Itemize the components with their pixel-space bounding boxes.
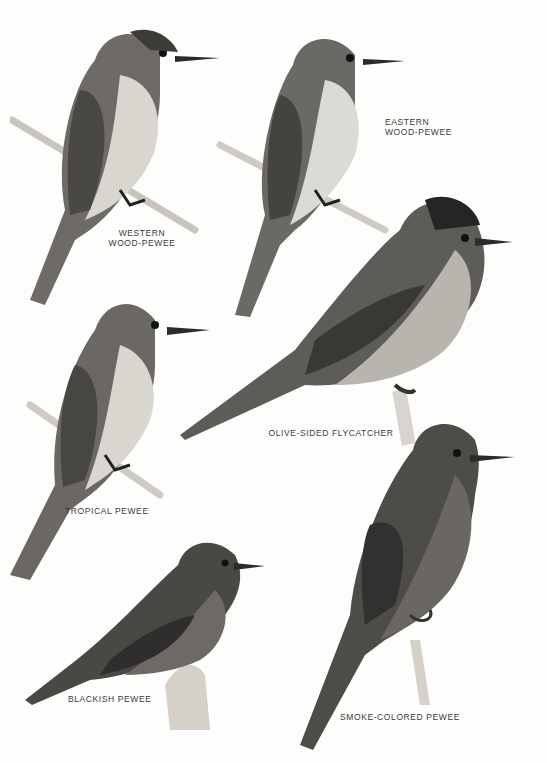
smoke-colored-pewee-label: SMOKE-COLORED PEWEE bbox=[335, 712, 465, 722]
illustration-plate: WESTERN WOOD-PEWEE EASTERN WOOD-PEWEE OL… bbox=[0, 0, 547, 763]
blackish-pewee-illustration bbox=[20, 535, 270, 735]
olive-sided-flycatcher-illustration bbox=[175, 190, 525, 450]
tropical-pewee-label: TROPICAL PEWEE bbox=[65, 506, 165, 516]
smoke-colored-pewee-illustration bbox=[285, 415, 525, 755]
eastern-wood-pewee-label: EASTERN WOOD-PEWEE bbox=[385, 117, 475, 137]
blackish-pewee-label: BLACKISH PEWEE bbox=[68, 694, 168, 704]
